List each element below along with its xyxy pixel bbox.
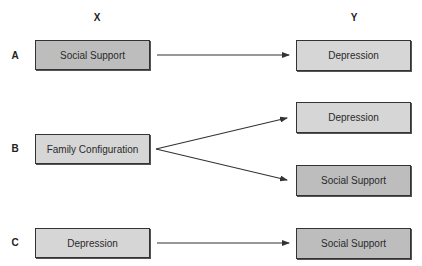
row-label-a: A bbox=[9, 50, 21, 62]
box-b-x-family-configuration: Family Configuration bbox=[35, 134, 150, 164]
box-label: Family Configuration bbox=[47, 144, 139, 155]
box-a-y-depression: Depression bbox=[296, 40, 411, 71]
row-label-b: B bbox=[9, 143, 21, 155]
box-c-y-social-support: Social Support bbox=[296, 228, 411, 259]
box-label: Social Support bbox=[60, 50, 125, 61]
arrow-b-down bbox=[156, 149, 287, 180]
box-label: Depression bbox=[67, 238, 118, 249]
box-label: Social Support bbox=[321, 175, 386, 186]
box-b-y-depression: Depression bbox=[296, 102, 411, 133]
row-label-c: C bbox=[9, 237, 21, 249]
box-a-x-social-support: Social Support bbox=[35, 40, 150, 70]
box-label: Depression bbox=[328, 50, 379, 61]
box-label: Social Support bbox=[321, 238, 386, 249]
box-c-x-depression: Depression bbox=[35, 228, 150, 258]
box-label: Depression bbox=[328, 112, 379, 123]
box-b-y-social-support: Social Support bbox=[296, 165, 411, 196]
arrow-b-up bbox=[156, 118, 287, 149]
